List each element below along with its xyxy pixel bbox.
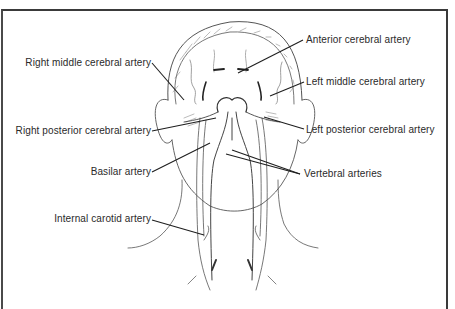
label-anterior-cerebral-artery: Anterior cerebral artery xyxy=(306,34,411,46)
leader-left-posterior-cerebral xyxy=(264,117,304,129)
leader-internal-carotid xyxy=(152,220,204,235)
label-left-middle-cerebral-artery: Left middle cerebral artery xyxy=(306,76,425,88)
label-vertebral-arteries: Vertebral arteries xyxy=(304,168,382,180)
label-internal-carotid-artery: Internal carotid artery xyxy=(54,213,151,225)
leader-right-posterior-cerebral xyxy=(152,118,216,131)
label-basilar-artery: Basilar artery xyxy=(91,166,151,178)
leader-anterior-cerebral xyxy=(238,40,303,73)
label-right-middle-cerebral-artery: Right middle cerebral artery xyxy=(25,57,151,69)
leader-vertebral-2 xyxy=(226,154,300,174)
leader-left-middle-cerebral xyxy=(270,82,304,96)
label-right-posterior-cerebral-artery: Right posterior cerebral artery xyxy=(16,125,151,137)
label-left-posterior-cerebral-artery: Left posterior cerebral artery xyxy=(306,124,435,136)
leader-basilar xyxy=(152,143,210,172)
